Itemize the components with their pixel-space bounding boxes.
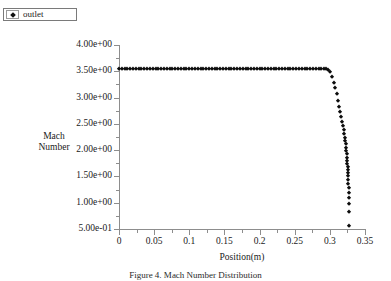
y-tick-label: 1.50e+00 [76,172,112,182]
x-tick-minor [312,230,313,233]
x-tick-label: 0.1 [183,237,195,247]
x-tick-minor [137,230,138,233]
y-axis-line [119,45,120,230]
x-tick-major [224,230,225,235]
data-point [346,202,351,207]
data-point [337,104,342,109]
x-tick-major [154,230,155,235]
x-tick-label: 0.05 [146,237,163,247]
y-tick-label: 3.50e+00 [76,67,112,77]
x-tick-major [260,230,261,235]
y-tick-label: 3.00e+00 [76,93,112,103]
x-tick-major [119,230,120,235]
plot-area: 5.00e-011.00e+001.50e+002.00e+002.50e+00… [119,45,365,229]
x-tick-minor [347,230,348,233]
y-tick-label: 2.00e+00 [76,145,112,155]
y-tick-minor [116,111,119,112]
y-tick-minor [116,190,119,191]
y-axis-title-line2: Number [26,142,82,153]
x-tick-minor [207,230,208,233]
data-point [346,196,351,201]
y-tick-label: 5.00e-01 [78,224,112,234]
legend-label: outlet [23,10,44,19]
x-tick-minor [172,230,173,233]
x-tick-label: 0.3 [324,237,336,247]
y-axis-title: Mach Number [26,131,82,153]
y-tick-major [114,45,119,46]
y-tick-minor [116,216,119,217]
data-point [346,223,351,228]
y-axis-title-line1: Mach [26,131,82,142]
x-tick-major [365,230,366,235]
x-tick-label: 0.2 [254,237,266,247]
x-tick-label: 0.25 [286,237,303,247]
y-tick-minor [116,58,119,59]
data-point [333,86,338,91]
data-point [334,92,339,97]
y-tick-major [114,150,119,151]
x-tick-label: 0 [117,237,122,247]
y-tick-minor [116,84,119,85]
y-tick-major [114,176,119,177]
y-tick-major [114,98,119,99]
x-axis-title: Position(m) [119,252,365,262]
data-point [346,209,351,214]
data-point [336,99,341,104]
data-point [332,80,337,85]
y-tick-label: 4.00e+00 [76,40,112,50]
y-tick-label: 1.00e+00 [76,198,112,208]
data-point [330,74,335,79]
x-tick-major [189,230,190,235]
x-tick-minor [242,230,243,233]
x-tick-label: 0.35 [357,237,374,247]
y-tick-minor [116,163,119,164]
x-tick-minor [277,230,278,233]
y-tick-minor [116,137,119,138]
x-tick-major [295,230,296,235]
y-tick-major [114,203,119,204]
x-tick-major [330,230,331,235]
x-tick-label: 0.15 [216,237,233,247]
y-tick-major [114,124,119,125]
legend: outlet [3,8,77,21]
figure-caption: Figure 4. Mach Number Distribution [0,270,391,281]
y-tick-label: 2.50e+00 [76,119,112,129]
diamond-marker-icon [6,10,19,19]
